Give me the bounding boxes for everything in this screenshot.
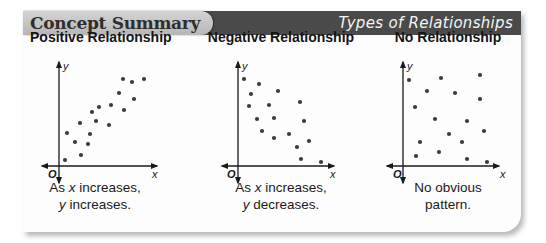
data-point xyxy=(255,117,259,121)
caption-text: As xyxy=(49,180,69,195)
data-point xyxy=(267,103,271,107)
data-point xyxy=(319,160,323,164)
data-point xyxy=(485,160,489,164)
data-point xyxy=(414,154,418,158)
data-point xyxy=(272,136,276,140)
data-point xyxy=(478,97,482,101)
data-point xyxy=(433,117,437,121)
data-point xyxy=(407,78,411,82)
data-point xyxy=(242,77,246,81)
data-point xyxy=(482,129,486,133)
data-point xyxy=(109,103,113,107)
caption-text: increases, xyxy=(261,180,326,195)
caption-text: increases, xyxy=(75,180,140,195)
data-point xyxy=(439,76,443,80)
data-point xyxy=(121,77,125,81)
no-relationship-scatter-plot: O x y xyxy=(387,60,506,183)
data-point xyxy=(142,77,146,81)
data-point xyxy=(78,121,82,125)
data-point xyxy=(478,73,482,77)
data-point xyxy=(453,91,457,95)
caption-text: No obvious xyxy=(414,180,482,195)
data-point xyxy=(307,139,311,143)
data-point xyxy=(107,123,111,127)
data-points xyxy=(63,77,146,162)
data-points xyxy=(407,73,489,164)
data-point xyxy=(86,142,90,146)
negative-caption: As x increases, y decreases. xyxy=(216,179,346,213)
data-point xyxy=(130,80,134,84)
none-caption: No obvious pattern. xyxy=(388,179,508,213)
data-point xyxy=(465,119,469,123)
data-point xyxy=(465,157,469,161)
positive-caption: As x increases, y increases. xyxy=(30,179,160,213)
data-point xyxy=(437,150,441,154)
y-axis-label: y xyxy=(241,60,249,72)
caption-text: As xyxy=(235,180,255,195)
data-point xyxy=(425,89,429,93)
data-point xyxy=(295,145,299,149)
data-point xyxy=(276,89,280,93)
data-point xyxy=(460,140,464,144)
data-point xyxy=(298,100,302,104)
data-point xyxy=(90,110,94,114)
data-point xyxy=(302,119,306,123)
data-point xyxy=(65,131,69,135)
data-point xyxy=(447,132,451,136)
data-point xyxy=(272,116,276,120)
data-point xyxy=(247,104,251,108)
data-point xyxy=(132,97,136,101)
data-point xyxy=(418,140,422,144)
data-point xyxy=(299,157,303,161)
data-point xyxy=(94,119,98,123)
data-point xyxy=(117,91,121,95)
positive-scatter-plot: O x y xyxy=(42,60,158,183)
y-axis-label: y xyxy=(406,60,414,72)
caption-text: decreases. xyxy=(249,197,319,212)
data-point xyxy=(287,132,291,136)
data-point xyxy=(79,153,83,157)
data-point xyxy=(257,82,261,86)
data-point xyxy=(413,105,417,109)
caption-text: pattern. xyxy=(425,197,471,212)
caption-variable: y xyxy=(59,197,66,212)
caption-text: increases. xyxy=(66,197,131,212)
data-point xyxy=(88,132,92,136)
negative-scatter-plot: O x y xyxy=(222,60,336,183)
data-point xyxy=(97,105,101,109)
y-axis-label: y xyxy=(62,60,70,72)
data-point xyxy=(122,108,126,112)
data-point xyxy=(249,92,253,96)
data-point xyxy=(73,140,77,144)
data-points xyxy=(242,77,323,164)
data-point xyxy=(260,129,264,133)
data-point xyxy=(63,158,67,162)
